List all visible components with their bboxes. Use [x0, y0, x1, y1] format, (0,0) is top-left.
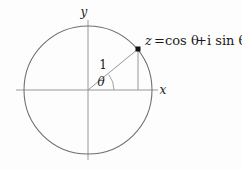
formula-plus: +	[196, 33, 207, 48]
angle-label: θ	[97, 75, 105, 89]
complex-number-formula: z = cos θ + i sin θ	[144, 33, 242, 48]
diagram-canvas: y x 1 θ z = cos θ + i sin θ	[0, 0, 242, 170]
formula-cos-term: cos θ	[165, 33, 199, 48]
radius-label: 1	[99, 58, 107, 72]
unit-circle-diagram: y x 1 θ z = cos θ + i sin θ	[0, 0, 242, 170]
formula-lhs: z	[144, 33, 152, 48]
formula-equals: =	[154, 33, 165, 48]
complex-point-marker	[136, 47, 141, 52]
angle-arc	[109, 75, 114, 90]
x-axis-label: x	[160, 83, 167, 97]
y-axis-label: y	[80, 5, 88, 19]
formula-sin-term: i sin θ	[207, 33, 242, 48]
